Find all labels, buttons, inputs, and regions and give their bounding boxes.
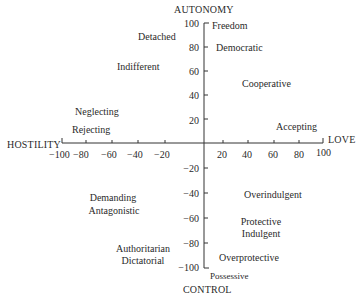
label-detached: Detached <box>138 31 176 42</box>
label-neglecting: Neglecting <box>75 106 119 117</box>
label-overprotective: Overprotective <box>219 252 279 263</box>
label-dictatorial: Dictatorial <box>110 255 176 266</box>
x-tick-label: 100 <box>316 147 331 158</box>
x-tick-label: −20 <box>154 149 170 160</box>
y-tick-label: −100 <box>178 262 199 273</box>
y-tick-label: 20 <box>189 115 199 126</box>
axis-title-love: LOVE <box>328 134 355 145</box>
y-tick-label: −40 <box>183 188 199 199</box>
label-indifferent: Indifferent <box>117 61 160 72</box>
label-authoritarian: Authoritarian <box>110 243 176 254</box>
y-tick-label: 80 <box>189 42 199 53</box>
label-accepting: Accepting <box>276 121 317 132</box>
x-tick-label: 20 <box>217 149 227 160</box>
label-democratic: Democratic <box>216 42 263 53</box>
x-tick-label: 60 <box>268 149 278 160</box>
x-tick-label: −100 <box>49 149 70 160</box>
label-freedom: Freedom <box>212 20 248 31</box>
axis-title-control: CONTROL <box>183 284 232 295</box>
y-tick-label: −20 <box>183 163 199 174</box>
label-cooperative: Cooperative <box>242 78 291 89</box>
y-tick-label: 100 <box>184 18 199 29</box>
label-protective: Protective <box>230 216 292 227</box>
axis-title-autonomy: AUTONOMY <box>174 4 234 15</box>
label-antagonistic: Antagonistic <box>84 205 144 216</box>
y-tick-label: −60 <box>183 213 199 224</box>
label-rejecting: Rejecting <box>72 124 110 135</box>
x-tick-label: −60 <box>101 149 117 160</box>
label-overindulgent: Overindulgent <box>244 189 302 200</box>
y-tick-label: −80 <box>183 238 199 249</box>
label-indulgent: Indulgent <box>230 228 292 239</box>
y-tick-label: 60 <box>189 66 199 77</box>
x-tick-label: −40 <box>127 149 143 160</box>
x-tick-label: 80 <box>294 149 304 160</box>
label-possessive: Possessive <box>210 271 249 282</box>
y-tick-label: 40 <box>189 90 199 101</box>
x-tick-label: −80 <box>73 149 89 160</box>
x-tick-label: 40 <box>242 149 252 160</box>
label-demanding: Demanding <box>88 192 138 203</box>
